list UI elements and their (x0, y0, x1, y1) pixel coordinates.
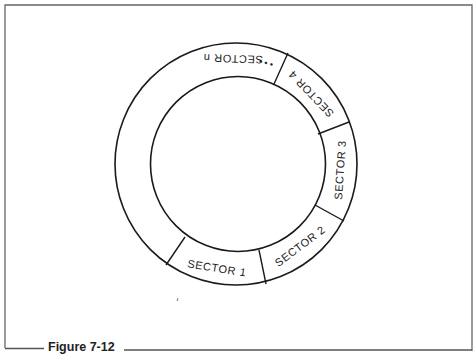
outer-ring (115, 43, 357, 285)
inner-ring (151, 77, 326, 252)
figure-caption: Figure 7-12 (44, 339, 119, 355)
figure-frame: SECTOR 1 SECTOR 2 SECTOR 3 SECTOR 4 SECT… (0, 0, 476, 355)
sector-n-label: SECTOR n (203, 52, 263, 66)
ring-diagram: SECTOR 1 SECTOR 2 SECTOR 3 SECTOR 4 SECT… (0, 0, 476, 355)
stray-mark (177, 298, 178, 301)
sector-ellipsis: • • • (258, 56, 275, 70)
divider-1-n (166, 237, 185, 265)
sector-2-label: SECTOR 2 (273, 223, 328, 268)
divider-2-1 (259, 250, 266, 284)
sector-1-label: SECTOR 1 (187, 257, 248, 278)
divider-4-3 (318, 122, 349, 134)
divider-3-2 (315, 205, 344, 221)
sector-3-label: SECTOR 3 (332, 140, 348, 200)
sector-4-label: SECTOR 4 (286, 68, 336, 119)
divider-n-4 (274, 53, 288, 84)
